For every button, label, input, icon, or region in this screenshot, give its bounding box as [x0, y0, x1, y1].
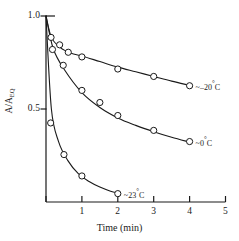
series-label-2: ~23°C	[124, 188, 144, 200]
y-tick-label: 1.0	[18, 10, 40, 20]
y-axis-label-main: A/A	[4, 97, 14, 113]
data-point-marker	[79, 54, 85, 60]
data-point-marker	[151, 127, 157, 133]
series-label-text: ~0	[196, 139, 204, 148]
data-point-marker	[115, 112, 121, 118]
degree-icon: °	[204, 135, 207, 143]
series-label-0: ~–20°C	[196, 80, 220, 92]
series-label-text: ~–20	[196, 83, 212, 92]
data-point-marker	[57, 42, 63, 48]
series-label-unit: C	[215, 83, 220, 92]
data-point-marker	[79, 173, 85, 179]
series-label-unit: C	[207, 139, 212, 148]
data-point-marker	[187, 83, 193, 89]
data-point-marker	[115, 66, 121, 72]
x-tick-label: 5	[216, 206, 236, 216]
chart-data-markers	[48, 34, 193, 196]
degree-icon: °	[136, 187, 139, 195]
x-tick-label: 3	[144, 206, 164, 216]
chart-curves	[46, 16, 190, 193]
chart-figure: A/AEQ Time (min) 123450.51.0 ~–20°C~0°C~…	[0, 0, 239, 241]
data-point-marker	[115, 191, 121, 197]
series-label-text: ~23	[124, 191, 136, 200]
data-point-marker	[60, 62, 66, 68]
x-tick-label: 4	[180, 206, 200, 216]
data-point-marker	[61, 151, 67, 157]
degree-icon: °	[212, 79, 215, 87]
data-point-marker	[97, 99, 103, 105]
data-point-marker	[48, 120, 54, 126]
x-tick-label: 2	[108, 206, 128, 216]
data-point-marker	[48, 34, 54, 40]
data-point-marker	[65, 49, 71, 55]
y-axis-label: A/AEQ	[4, 78, 14, 124]
series-label-1: ~0°C	[196, 136, 212, 148]
chart-axes	[41, 16, 226, 202]
series-curve-1	[46, 16, 190, 142]
x-axis-label: Time (min)	[0, 222, 239, 233]
series-label-unit: C	[139, 191, 144, 200]
y-tick-label: 0.5	[18, 103, 40, 113]
chart-plot-area	[0, 0, 239, 241]
y-axis-label-subscript: EQ	[8, 88, 15, 97]
data-point-marker	[187, 138, 193, 144]
x-tick-label: 1	[72, 206, 92, 216]
data-point-marker	[49, 46, 55, 52]
data-point-marker	[79, 87, 85, 93]
data-point-marker	[151, 73, 157, 79]
series-curve-2	[46, 16, 118, 193]
